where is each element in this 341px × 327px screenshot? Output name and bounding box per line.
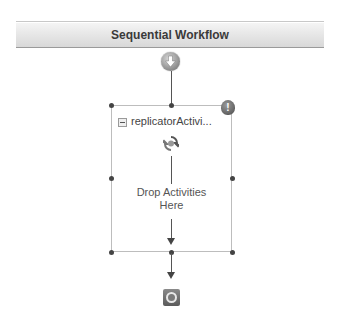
resize-handle-mid-left[interactable] [109, 176, 114, 181]
workflow-end-icon[interactable] [163, 289, 180, 306]
activity-name[interactable]: replicatorActivi... [131, 115, 212, 127]
collapse-icon[interactable] [118, 118, 127, 127]
workflow-header: Sequential Workflow [16, 23, 324, 48]
drop-text-line2: Here [121, 199, 222, 212]
header-divider [16, 21, 324, 22]
workflow-title: Sequential Workflow [16, 28, 324, 42]
resize-handle-top-center[interactable] [169, 103, 174, 108]
drop-activities-target[interactable]: Drop Activities Here [121, 186, 222, 212]
warning-badge-icon[interactable]: ! [221, 100, 235, 115]
replicator-icon [163, 136, 179, 151]
connector-line [171, 71, 172, 105]
drop-text-line1: Drop Activities [121, 186, 222, 199]
resize-handle-bottom-right[interactable] [230, 250, 235, 255]
resize-handle-bottom-left[interactable] [109, 250, 114, 255]
arrow-down-icon [167, 238, 175, 245]
resize-handle-top-left[interactable] [109, 103, 114, 108]
arrow-down-icon [167, 272, 175, 279]
outer-connector-line-lower [171, 253, 172, 273]
inner-connector-line [171, 156, 172, 184]
workflow-start-icon[interactable] [161, 52, 180, 71]
resize-handle-mid-right[interactable] [230, 176, 235, 181]
inner-connector-line-lower [171, 219, 172, 239]
